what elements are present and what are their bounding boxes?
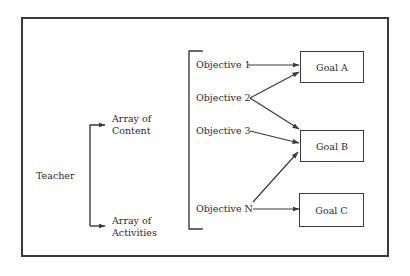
arrow-obj2-goalB	[250, 98, 299, 129]
arrow-obj3-goalB	[250, 131, 299, 143]
array-activities-line2: Activities	[112, 227, 157, 239]
goal-a-box: Goal A	[300, 51, 364, 83]
objective-2-label: Objective 2	[196, 92, 251, 104]
array-activities-line1: Array of	[112, 215, 157, 227]
goal-c-box: Goal C	[299, 193, 364, 227]
array-content-line1: Array of	[112, 113, 151, 125]
arrow-obj2-goalA	[250, 72, 299, 98]
objective-n-label: Objective N	[196, 203, 253, 215]
teacher-bracket	[90, 125, 105, 226]
teacher-label: Teacher	[36, 170, 75, 182]
array-of-content-label: Array of Content	[112, 113, 151, 137]
goal-b-label: Goal B	[316, 141, 348, 152]
goal-c-label: Goal C	[315, 205, 347, 216]
goal-b-box: Goal B	[300, 130, 364, 162]
objective-goal-arrows	[248, 65, 299, 209]
objective-3-label: Objective 3	[196, 125, 251, 137]
objective-1-label: Objective 1	[196, 59, 251, 71]
array-content-line2: Content	[112, 125, 151, 137]
arrow-objN-goalB	[253, 152, 298, 202]
goal-a-label: Goal A	[316, 62, 348, 73]
array-of-activities-label: Array of Activities	[112, 215, 157, 239]
